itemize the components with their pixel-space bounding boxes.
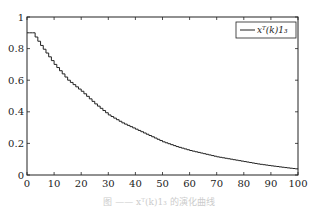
x-tick-label: 10 [48,178,61,189]
y-tick-label: 0.8 [8,43,24,54]
plot-area: 010203040506070809010000.20.40.60.81xᵀ(k… [8,12,307,190]
y-tick-label: 1 [18,12,24,23]
x-tick-label: 20 [75,178,88,189]
x-tick-label: 0 [24,178,30,189]
x-tick-label: 30 [102,178,115,189]
figure-caption: 图 —— xᵀ(k)1₃ 的演化曲线 [0,195,318,208]
y-tick-label: 0.6 [8,75,24,86]
x-tick-label: 40 [129,178,142,189]
y-tick-label: 0.4 [8,106,24,117]
x-tick-label: 70 [210,178,223,189]
axes-frame [27,17,298,175]
x-tick-label: 90 [265,178,278,189]
y-tick-label: 0 [18,170,24,181]
x-tick-label: 60 [183,178,196,189]
x-tick-label: 80 [237,178,250,189]
legend-label: xᵀ(k)1₃ [257,25,288,35]
line-chart: 010203040506070809010000.20.40.60.81xᵀ(k… [0,0,318,208]
series-line [27,33,298,169]
x-tick-label: 100 [288,178,307,189]
y-tick-label: 0.2 [8,138,24,149]
x-tick-label: 50 [156,178,169,189]
